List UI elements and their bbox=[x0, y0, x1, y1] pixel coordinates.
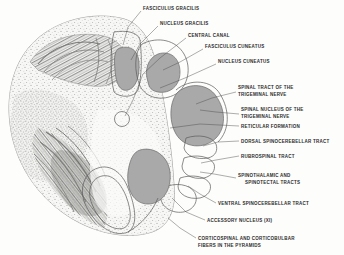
label-spinal-tract-trigeminal-2: TRIGEMINAL NERVE bbox=[238, 92, 287, 97]
label-spinal-nucleus-trigeminal-1: SPINAL NUCLEUS OF THE bbox=[241, 107, 303, 112]
medulla-cross-section-diagram: FASCICULUS GRACILISNUCLEUS GRACILISCENTR… bbox=[0, 0, 344, 255]
leader-accessory-nucleus bbox=[172, 198, 205, 220]
figure-canvas: FASCICULUS GRACILISNUCLEUS GRACILISCENTR… bbox=[0, 0, 344, 255]
leader-corticospinal bbox=[168, 218, 196, 238]
label-fasciculus-gracilis: FASCICULUS GRACILIS bbox=[143, 6, 199, 11]
label-rubrospinal-tract: RUBROSPINAL TRACT bbox=[241, 154, 295, 159]
accessory-nucleus-shape bbox=[128, 149, 171, 204]
label-ventral-spinocerebellar: VENTRAL SPINOCEREBELLAR TRACT bbox=[218, 201, 309, 206]
spinal-nucleus-of-trigeminal-shape bbox=[171, 86, 224, 146]
label-spinothalamic-1: SPINOTHALAMIC AND bbox=[238, 173, 291, 178]
label-corticospinal-1: CORTICOSPINAL AND CORTICOBULBAR bbox=[198, 236, 295, 241]
label-central-canal: CENTRAL CANAL bbox=[188, 33, 230, 38]
label-fasciculus-cuneatus: FASCICULUS CUNEATUS bbox=[205, 44, 264, 49]
label-corticospinal-2: FIBERS IN THE PYRAMIDS bbox=[198, 243, 261, 248]
label-dorsal-spinocerebellar: DORSAL SPINOCEREBELLAR TRACT bbox=[241, 139, 329, 144]
leader-spinothalamic bbox=[200, 172, 236, 178]
tissue-section bbox=[0, 0, 200, 255]
label-accessory-nucleus: ACCESSORY NUCLEUS (XI) bbox=[207, 218, 273, 223]
label-spinal-tract-trigeminal-1: SPINAL TRACT OF THE bbox=[238, 85, 293, 90]
label-spinothalamic-2: SPINOTECTAL TRACTS bbox=[245, 180, 300, 185]
leader-ventral-spinocerebellar bbox=[188, 186, 216, 203]
label-nucleus-gracilis: NUCLEUS GRACILIS bbox=[160, 21, 209, 26]
nucleus-cuneatus-shape bbox=[146, 53, 180, 92]
label-nucleus-cuneatus: NUCLEUS CUNEATUS bbox=[218, 59, 270, 64]
leader-rubrospinal bbox=[201, 156, 239, 163]
rubrospinal-tract-shape bbox=[182, 156, 215, 178]
label-reticular-formation: RETICULAR FORMATION bbox=[241, 124, 300, 129]
spinothalamic-spinotectal-tracts-shape bbox=[178, 176, 211, 198]
nucleus-gracilis-shape bbox=[115, 47, 140, 90]
label-spinal-nucleus-trigeminal-2: TRIGEMINAL NERVE bbox=[241, 114, 290, 119]
